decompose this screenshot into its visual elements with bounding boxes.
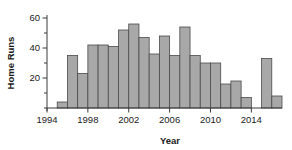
x-axis-tick-labels: 199419982002200620102014 [36,114,261,125]
chart-container: 204060 199419982002200620102014 Home Run… [0,0,292,150]
bar [78,74,88,109]
x-tick-label: 1994 [36,114,57,125]
bar [67,56,77,109]
y-tick-label: 60 [29,12,40,23]
bar [88,45,98,108]
bar [221,84,231,108]
bar [119,30,129,108]
x-tick-label: 1998 [77,114,98,125]
y-axis-tick-labels: 204060 [29,12,40,83]
home-runs-bar-chart: 204060 199419982002200620102014 Home Run… [0,0,292,150]
y-axis-title: Home Runs [5,37,16,90]
bar [170,56,180,109]
bar [180,27,190,108]
bar [231,81,241,108]
x-tick-label: 2014 [241,114,262,125]
bar [190,56,200,109]
bar [159,36,169,108]
bar [108,47,118,109]
bar [241,98,251,109]
bar [139,38,149,109]
bar-series [57,24,282,108]
x-tick-label: 2002 [118,114,139,125]
y-axis-ticks [43,18,48,93]
bar [210,63,220,108]
x-axis-title: Year [160,135,180,146]
bar [98,45,108,108]
y-tick-label: 40 [29,42,40,53]
bar [262,59,272,109]
bar [149,54,159,108]
bar [129,24,139,108]
bar [200,63,210,108]
y-tick-label: 20 [29,72,40,83]
x-axis-ticks [47,108,251,113]
x-tick-label: 2006 [159,114,180,125]
x-tick-label: 2010 [200,114,221,125]
bar [272,96,282,108]
bar [57,102,67,108]
